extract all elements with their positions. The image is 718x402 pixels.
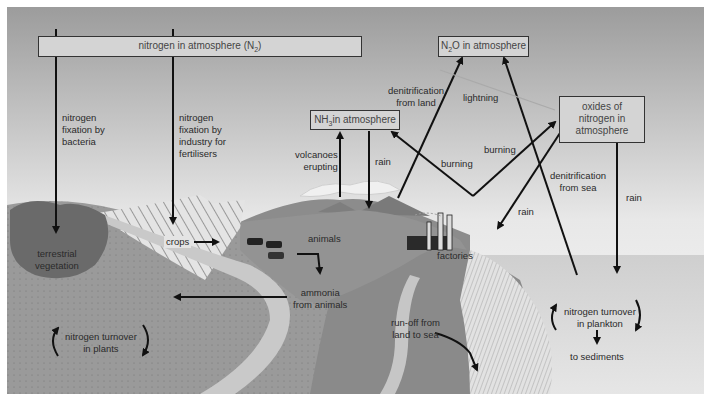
label-terrestrial-vegetation: terrestrial vegetation [35, 248, 79, 272]
label-line: erupting [295, 161, 338, 173]
label-turnover-plankton: nitrogen turnover in plankton [564, 306, 636, 330]
label-line: nitrogen turnover [65, 331, 137, 343]
box-nh3-text: NH [314, 111, 328, 128]
label-line: denitrification [550, 170, 606, 182]
label-denit-land: denitrification from land [388, 85, 444, 109]
label-line: from sea [550, 182, 606, 194]
label-runoff: run-off from land to sea [391, 317, 440, 341]
label-rain-factory: rain [518, 206, 534, 218]
label-factories: factories [437, 250, 473, 262]
box-n2o-atmosphere: N2O in atmosphere [438, 36, 529, 57]
box-n2-tail: ) [258, 37, 261, 55]
label-fixation-industry: nitrogen fixation by industry for fertil… [179, 112, 226, 160]
nitrogen-cycle-diagram: nitrogen in atmosphere (N2) N2O in atmos… [0, 0, 718, 402]
label-line: from land [388, 97, 444, 109]
box-nox-line3: atmosphere [560, 125, 644, 137]
label-line: from animals [293, 299, 347, 311]
label-line: nitrogen [179, 112, 226, 124]
label-burning-left: burning [441, 158, 473, 170]
box-n2o-tail: O in atmosphere [452, 37, 526, 55]
label-animals: animals [308, 233, 341, 245]
box-nox-line2: nitrogen in [560, 113, 644, 125]
label-rain-sea: rain [626, 192, 642, 204]
box-oxides-nitrogen: oxides of nitrogen in atmosphere [559, 96, 645, 143]
label-volcanoes: volcanoes erupting [295, 149, 338, 173]
label-line: bacteria [62, 136, 105, 148]
label-rain-nh3: rain [375, 156, 391, 168]
label-line: denitrification [388, 85, 444, 97]
label-line: industry for [179, 136, 226, 148]
box-n2-atmosphere: nitrogen in atmosphere (N2) [38, 36, 362, 57]
label-crops: crops [164, 236, 191, 248]
label-line: nitrogen [62, 112, 105, 124]
label-line: vegetation [35, 260, 79, 272]
label-line: ammonia [293, 287, 347, 299]
label-turnover-plants: nitrogen turnover in plants [65, 331, 137, 355]
box-n2-text: nitrogen in atmosphere (N [139, 37, 255, 55]
label-lightning: lightning [463, 92, 498, 104]
label-line: run-off from [391, 317, 440, 329]
label-denit-sea: denitrification from sea [550, 170, 606, 194]
label-line: fixation by [179, 124, 226, 136]
label-line: nitrogen turnover [564, 306, 636, 318]
label-fixation-bacteria: nitrogen fixation by bacteria [62, 112, 105, 148]
label-line: land to sea [391, 329, 440, 341]
box-nox-line1: oxides of [560, 101, 644, 113]
label-line: fertilisers [179, 148, 226, 160]
label-line: in plants [65, 343, 137, 355]
label-sediments: to sediments [570, 351, 624, 363]
label-ammonia: ammonia from animals [293, 287, 347, 311]
box-nh3-atmosphere: NH3 in atmosphere [310, 110, 400, 130]
box-nh3-tail: in atmosphere [332, 111, 395, 128]
label-line: volcanoes [295, 149, 338, 161]
label-burning-right: burning [484, 144, 516, 156]
label-line: in plankton [564, 318, 636, 330]
label-line: fixation by [62, 124, 105, 136]
label-line: terrestrial [35, 248, 79, 260]
